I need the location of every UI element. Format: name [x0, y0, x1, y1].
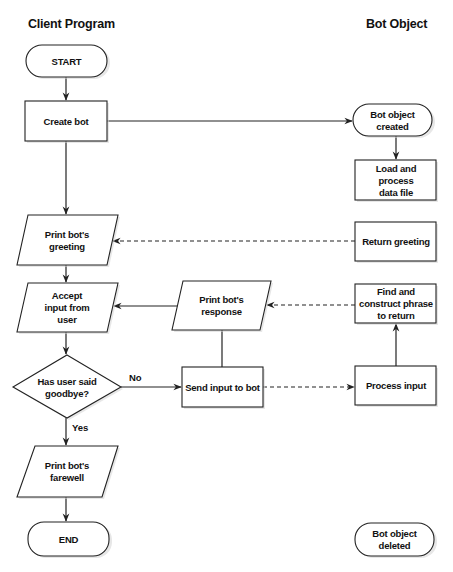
node-label-line: deleted — [379, 540, 411, 551]
node-label-line: input from — [45, 302, 90, 313]
node-start: START — [26, 45, 110, 79]
node-label-line: Create bot — [44, 116, 90, 127]
node-label-line: Bot object — [370, 109, 415, 120]
node-label-line: to return — [377, 310, 415, 321]
node-label-line: created — [376, 121, 409, 132]
node-label-line: END — [59, 534, 79, 545]
node-label-line: Has user said — [37, 376, 97, 387]
node-label-line: Print bot's — [45, 229, 89, 240]
node-end: END — [28, 522, 112, 558]
node-goodbye-decision: Has user saidgoodbye? — [13, 355, 123, 420]
node-label-line: response — [201, 306, 242, 317]
node-label-line: Load and — [376, 163, 417, 174]
node-label-line: process — [378, 175, 413, 186]
node-label-line: user — [57, 314, 77, 325]
lane-title-client: Client Program — [28, 17, 115, 31]
node-bot-deleted: Bot objectdeleted — [355, 523, 437, 558]
node-print-greeting: Print bot'sgreeting — [17, 215, 120, 267]
node-print-response: Print bot'sresponse — [172, 281, 273, 332]
node-label-line: Return greeting — [362, 236, 430, 247]
node-label-line: goodbye? — [45, 388, 89, 399]
node-label-line: greeting — [49, 241, 85, 252]
node-process-input: Process input — [355, 366, 438, 407]
node-label-line: construct phrase — [359, 298, 433, 309]
node-label-line: Send input to bot — [185, 382, 261, 393]
node-create-bot: Create bot — [25, 101, 109, 143]
node-label-line: Process input — [366, 380, 427, 391]
node-print-farewell: Print bot'sfarewell — [17, 446, 120, 499]
edge-label-yes: Yes — [72, 422, 88, 433]
node-load-data: Load andprocessdata file — [355, 160, 438, 202]
node-accept-input: Acceptinput fromuser — [17, 283, 120, 334]
node-return-greeting: Return greeting — [355, 222, 438, 263]
node-label-line: Print bot's — [45, 460, 89, 471]
edge-label-no: No — [129, 372, 142, 383]
node-label-line: farewell — [50, 472, 84, 483]
node-label-line: Accept — [52, 290, 84, 301]
node-label-line: Find and — [377, 286, 415, 297]
node-label-line: START — [52, 56, 82, 67]
node-send-input: Send input to bot — [182, 367, 265, 409]
node-find-phrase: Find andconstruct phraseto return — [355, 284, 438, 325]
node-label-line: data file — [379, 187, 413, 198]
lane-title-bot: Bot Object — [366, 17, 428, 31]
node-label-line: Bot object — [372, 528, 417, 539]
flowchart: Client Program Bot Object No Yes START C… — [0, 0, 453, 572]
node-bot-created: Bot objectcreated — [353, 104, 435, 138]
node-label-line: Print bot's — [199, 294, 243, 305]
